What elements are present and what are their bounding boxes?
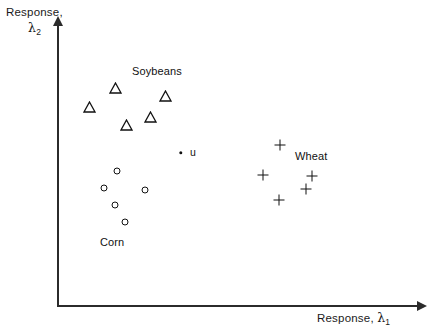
x-axis-title-text: Response, (317, 312, 374, 324)
data-point-wheat (274, 195, 285, 206)
x-axis-title: Response, λ1 (317, 310, 390, 327)
y-axis-title: Response, λ2 (6, 5, 63, 40)
y-axis-lambda-symbol: λ (28, 20, 36, 35)
cluster-label-corn: Corn (100, 236, 124, 248)
data-point-corn (114, 168, 121, 175)
data-point-u (179, 151, 182, 154)
data-point-wheat (301, 184, 312, 195)
cluster-label-wheat: Wheat (295, 150, 327, 162)
x-axis-arrowhead-icon (417, 301, 427, 311)
y-axis-subscript: 2 (36, 27, 41, 37)
data-point-corn (142, 187, 149, 194)
point-annotation-u: u (190, 146, 196, 158)
data-point-corn (112, 202, 119, 209)
cluster-label-soybeans: Soybeans (132, 65, 182, 77)
y-axis-title-text: Response, (6, 6, 63, 18)
y-axis-title-symbol-group: λ2 (6, 20, 63, 40)
data-point-wheat (258, 170, 269, 181)
y-axis-line (57, 24, 59, 307)
scatter-plot-figure: Response, λ2 Response, λ1 SoybeansCornWh… (0, 0, 429, 328)
data-point-corn (122, 219, 129, 226)
x-axis-line (57, 305, 420, 307)
data-point-wheat (307, 171, 318, 182)
data-point-wheat (275, 140, 286, 151)
data-point-corn (101, 185, 108, 192)
x-axis-subscript: 1 (385, 317, 390, 327)
